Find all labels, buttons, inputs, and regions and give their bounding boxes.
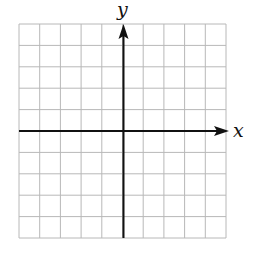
y-axis-label: y [116,0,128,20]
coordinate-plane: x y [0,0,257,253]
x-axis-label: x [233,119,244,141]
